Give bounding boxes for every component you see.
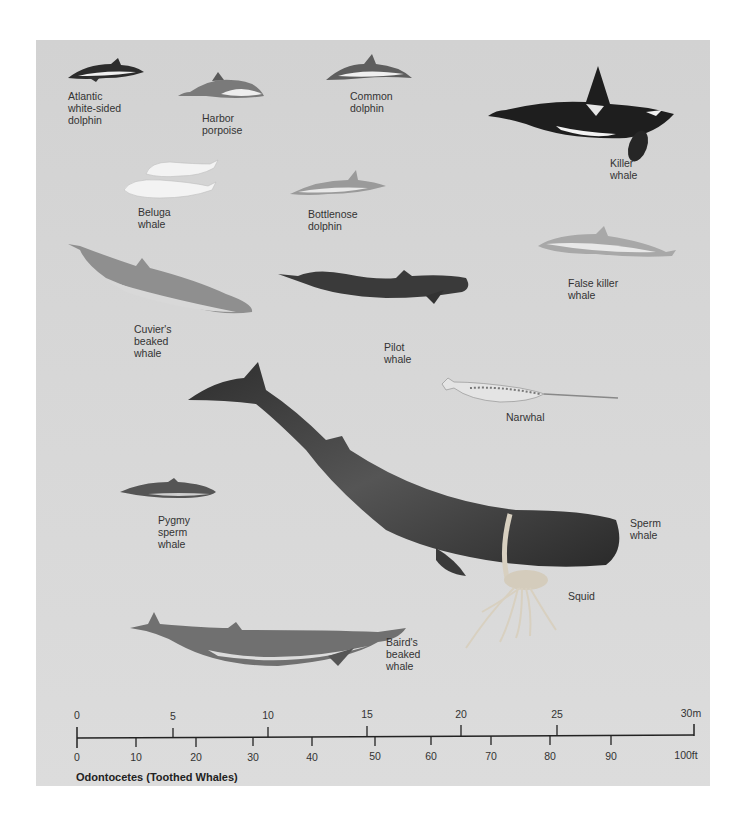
figure-caption: Odontocetes (Toothed Whales): [76, 771, 238, 783]
bairds-beaked-whale-illustration: [128, 610, 410, 672]
pilot-whale-illustration: [276, 264, 472, 314]
atlantic-white-sided-dolphin-illustration: [66, 56, 146, 86]
scale-feet-tick: 20: [190, 751, 202, 763]
bottlenose-dolphin-illustration: [288, 164, 388, 202]
label-atlantic-white-sided-dolphin: Atlantic white-sided dolphin: [68, 90, 121, 126]
scale-feet-tick: 80: [544, 750, 556, 762]
label-harbor-porpoise: Harbor porpoise: [202, 112, 242, 136]
killer-whale-illustration: [486, 64, 686, 164]
squid-illustration: [460, 512, 570, 652]
scale-feet-tick: 90: [605, 750, 617, 762]
label-beluga-whale: Beluga whale: [138, 206, 171, 230]
scale-feet-tick: 30: [247, 751, 259, 763]
illustration-panel: Atlantic white-sided dolphin Harbor porp…: [36, 40, 710, 786]
false-killer-whale-illustration: [536, 224, 676, 264]
cuviers-beaked-whale-illustration: [66, 240, 256, 320]
label-squid: Squid: [568, 590, 595, 602]
beluga-whale-illustration: [120, 158, 220, 204]
scale-feet-tick: 60: [425, 750, 437, 762]
label-bottlenose-dolphin: Bottlenose dolphin: [308, 208, 358, 232]
scale-meter-tick: 5: [170, 710, 176, 722]
scale-meter-tick: 15: [361, 708, 373, 720]
harbor-porpoise-illustration: [176, 70, 266, 102]
label-false-killer-whale: False killer whale: [568, 277, 618, 301]
label-cuviers-beaked-whale: Cuvier's beaked whale: [134, 323, 172, 359]
scale-feet-tick: 0: [74, 751, 80, 763]
scale-feet-tick: 10: [130, 751, 142, 763]
label-common-dolphin: Common dolphin: [350, 90, 393, 114]
scale-feet-tick: 100ft: [674, 749, 697, 761]
scale-meter-tick: 20: [455, 708, 467, 720]
scale-meter-tick: 10: [262, 709, 274, 721]
label-sperm-whale: Sperm whale: [630, 517, 661, 541]
scale-meter-tick: 0: [74, 709, 80, 721]
scale-meter-tick: 25: [551, 708, 563, 720]
label-killer-whale: Killer whale: [610, 157, 637, 181]
scale-feet-tick: 50: [369, 750, 381, 762]
scale-meter-tick: 30m: [681, 707, 701, 719]
common-dolphin-illustration: [324, 50, 414, 86]
scale-feet-tick: 70: [485, 750, 497, 762]
label-bairds-beaked-whale: Baird's beaked whale: [386, 636, 420, 672]
scale-feet-tick: 40: [306, 751, 318, 763]
